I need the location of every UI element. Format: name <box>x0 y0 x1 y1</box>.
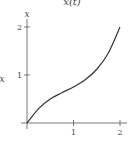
y-tick-label: 2 <box>17 23 22 32</box>
ticks: 1212 <box>17 23 123 137</box>
chart-title: x(t) <box>63 0 81 7</box>
chart: x(t) x x 1212 <box>0 0 131 152</box>
x-tick-label: 1 <box>71 128 76 137</box>
y-axis-top-label: x <box>24 9 29 19</box>
y-axis-label: x <box>0 74 5 84</box>
y-tick-label: 1 <box>17 71 22 80</box>
curve-x-of-t <box>27 27 120 123</box>
axes <box>21 19 127 129</box>
x-tick-label: 2 <box>117 128 122 137</box>
